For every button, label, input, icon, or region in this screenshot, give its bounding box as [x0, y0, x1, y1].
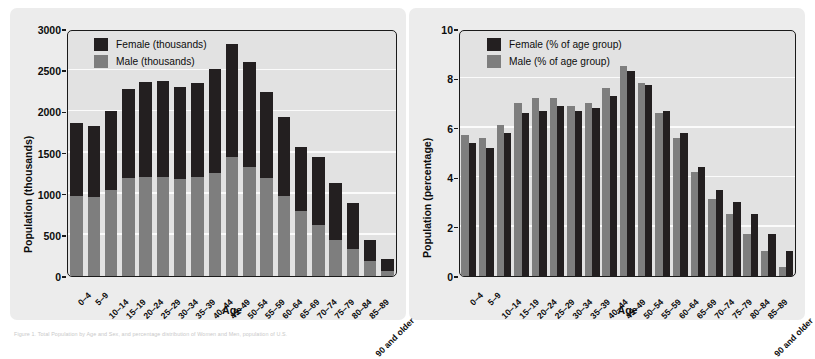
stacked-bar[interactable] — [329, 31, 341, 276]
bar-male[interactable] — [550, 98, 557, 276]
bar-male[interactable] — [673, 138, 680, 276]
stacked-bar[interactable] — [364, 31, 376, 276]
bar-group[interactable] — [654, 31, 672, 276]
bar-female[interactable] — [539, 111, 546, 276]
bar-female[interactable] — [680, 133, 687, 276]
bar-female[interactable] — [716, 190, 723, 276]
stacked-bar[interactable] — [312, 31, 324, 276]
bar-female[interactable] — [575, 111, 582, 276]
grouped-bar-pair[interactable] — [620, 31, 635, 276]
bar-male[interactable] — [461, 135, 468, 276]
bar-group[interactable] — [379, 31, 396, 276]
bar-group[interactable] — [327, 31, 344, 276]
bar-female[interactable] — [469, 143, 476, 276]
bar-segment-female[interactable] — [105, 111, 117, 190]
grouped-bar-pair[interactable] — [761, 31, 776, 276]
bar-segment-male[interactable] — [347, 249, 359, 276]
bar-male[interactable] — [514, 103, 521, 276]
bar-female[interactable] — [751, 214, 758, 276]
bar-group[interactable] — [362, 31, 379, 276]
bar-group[interactable] — [742, 31, 760, 276]
grouped-bar-pair[interactable] — [779, 31, 794, 276]
bar-male[interactable] — [761, 251, 768, 276]
bar-male[interactable] — [655, 113, 662, 276]
bar-female[interactable] — [645, 85, 652, 276]
bar-group[interactable] — [636, 31, 654, 276]
bar-segment-female[interactable] — [88, 126, 100, 196]
bar-male[interactable] — [497, 125, 504, 276]
bar-segment-male[interactable] — [122, 178, 134, 276]
stacked-bar[interactable] — [295, 31, 307, 276]
grouped-bar-pair[interactable] — [673, 31, 688, 276]
bar-group[interactable] — [760, 31, 778, 276]
bar-male[interactable] — [691, 172, 698, 276]
bar-group[interactable] — [777, 31, 795, 276]
bar-segment-male[interactable] — [329, 240, 341, 276]
bar-group[interactable] — [310, 31, 327, 276]
grouped-bar-pair[interactable] — [708, 31, 723, 276]
bar-segment-female[interactable] — [191, 83, 203, 177]
bar-group[interactable] — [206, 31, 223, 276]
bar-segment-male[interactable] — [209, 173, 221, 276]
bar-segment-male[interactable] — [105, 190, 117, 276]
bar-segment-male[interactable] — [88, 197, 100, 276]
bar-male[interactable] — [743, 234, 750, 276]
bar-group[interactable] — [344, 31, 361, 276]
bar-female[interactable] — [522, 113, 529, 276]
bar-segment-male[interactable] — [139, 177, 151, 276]
bar-group[interactable] — [258, 31, 275, 276]
bar-female[interactable] — [733, 202, 740, 276]
stacked-bar[interactable] — [381, 31, 393, 276]
bar-segment-female[interactable] — [295, 147, 307, 211]
stacked-bar[interactable] — [260, 31, 272, 276]
grouped-bar-pair[interactable] — [743, 31, 758, 276]
bar-group[interactable] — [223, 31, 240, 276]
bar-segment-male[interactable] — [191, 177, 203, 276]
bar-female[interactable] — [627, 71, 634, 276]
bar-female[interactable] — [698, 167, 705, 276]
bar-female[interactable] — [786, 251, 793, 276]
bar-segment-female[interactable] — [122, 89, 134, 178]
bar-segment-male[interactable] — [278, 196, 290, 276]
bar-female[interactable] — [663, 111, 670, 276]
stacked-bar[interactable] — [278, 31, 290, 276]
bar-segment-female[interactable] — [347, 203, 359, 249]
bar-segment-female[interactable] — [70, 123, 82, 195]
bar-female[interactable] — [592, 108, 599, 276]
bar-segment-female[interactable] — [312, 157, 324, 225]
bar-segment-male[interactable] — [364, 261, 376, 276]
grouped-bar-pair[interactable] — [691, 31, 706, 276]
bar-group[interactable] — [292, 31, 309, 276]
bar-segment-male[interactable] — [312, 225, 324, 276]
bar-segment-male[interactable] — [70, 196, 82, 276]
bar-male[interactable] — [532, 98, 539, 276]
bar-male[interactable] — [726, 214, 733, 276]
bar-male[interactable] — [567, 106, 574, 276]
bar-female[interactable] — [486, 148, 493, 276]
bar-male[interactable] — [708, 199, 715, 276]
bar-male[interactable] — [779, 267, 786, 276]
bar-segment-female[interactable] — [174, 87, 186, 179]
bar-segment-female[interactable] — [260, 92, 272, 178]
bar-segment-female[interactable] — [226, 44, 238, 157]
bar-segment-female[interactable] — [364, 240, 376, 261]
bar-group[interactable] — [460, 31, 478, 276]
stacked-bar[interactable] — [226, 31, 238, 276]
bar-group[interactable] — [672, 31, 690, 276]
bar-segment-male[interactable] — [295, 211, 307, 276]
bar-group[interactable] — [241, 31, 258, 276]
bar-segment-female[interactable] — [381, 259, 393, 271]
bar-group[interactable] — [724, 31, 742, 276]
bar-segment-female[interactable] — [139, 82, 151, 178]
bar-segment-female[interactable] — [157, 81, 169, 177]
grouped-bar-pair[interactable] — [655, 31, 670, 276]
bar-segment-female[interactable] — [243, 62, 255, 167]
bar-female[interactable] — [610, 96, 617, 276]
bar-male[interactable] — [620, 66, 627, 276]
stacked-bar[interactable] — [70, 31, 82, 276]
bar-segment-female[interactable] — [209, 69, 221, 173]
bar-segment-female[interactable] — [278, 117, 290, 196]
bar-male[interactable] — [638, 83, 645, 276]
bar-male[interactable] — [585, 103, 592, 276]
bar-group[interactable] — [689, 31, 707, 276]
